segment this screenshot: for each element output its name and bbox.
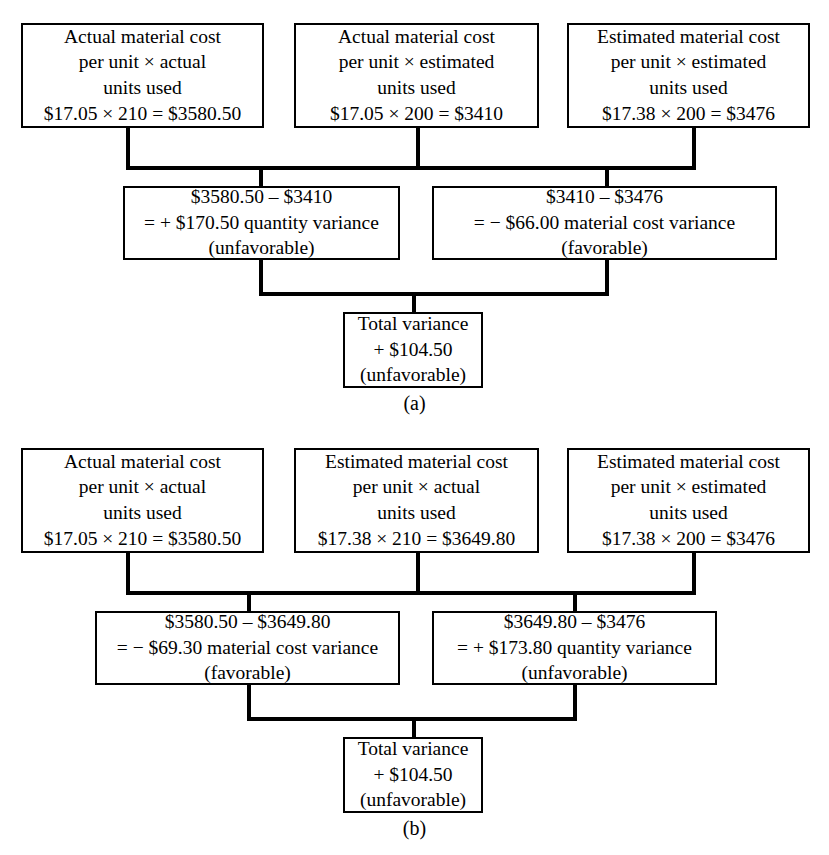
node-line: $3649.80 – $3476 bbox=[504, 609, 645, 635]
node-line: Actual material cost bbox=[64, 449, 221, 475]
node-line: (favorable) bbox=[561, 235, 648, 261]
node-line: per unit × actual bbox=[79, 49, 206, 75]
node-line: Total variance bbox=[358, 736, 469, 762]
node-a-top-1: Actual material cost per unit × actual u… bbox=[21, 23, 264, 128]
connector-a-mid-bus bbox=[259, 292, 609, 296]
panel-label-b: (b) bbox=[0, 817, 829, 840]
node-line: $17.38 × 200 = $3476 bbox=[602, 526, 775, 552]
node-line: $17.05 × 210 = $3580.50 bbox=[44, 526, 242, 552]
panel-label-a: (a) bbox=[0, 392, 829, 415]
node-line: = + $173.80 quantity variance bbox=[457, 635, 692, 661]
node-line: (unfavorable) bbox=[208, 235, 314, 261]
panel-a: Actual material cost per unit × actual u… bbox=[0, 0, 829, 430]
node-line: $17.38 × 200 = $3476 bbox=[602, 101, 775, 127]
node-a-mid-1: $3580.50 – $3410 = + $170.50 quantity va… bbox=[123, 186, 400, 260]
node-line: units used bbox=[649, 75, 728, 101]
node-line: $17.05 × 210 = $3580.50 bbox=[44, 101, 242, 127]
node-a-top-2: Actual material cost per unit × estimate… bbox=[294, 23, 539, 128]
node-line: (unfavorable) bbox=[360, 787, 466, 813]
node-line: $3580.50 – $3649.80 bbox=[165, 609, 331, 635]
connector-a-top-bus bbox=[126, 166, 696, 170]
node-b-total: Total variance + $104.50 (unfavorable) bbox=[343, 737, 483, 813]
node-line: units used bbox=[649, 500, 728, 526]
node-a-mid-2: $3410 – $3476 = − $66.00 material cost v… bbox=[432, 186, 777, 260]
connector-b-top1-down bbox=[126, 551, 130, 595]
connector-b-top2-down bbox=[416, 551, 420, 595]
connector-a-top1-down bbox=[126, 126, 130, 170]
node-line: $17.05 × 200 = $3410 bbox=[330, 101, 503, 127]
panel-b: Actual material cost per unit × actual u… bbox=[0, 425, 829, 855]
connector-a-top3-down bbox=[692, 126, 696, 170]
connector-a-mid2-down bbox=[605, 258, 609, 296]
node-line: + $104.50 bbox=[373, 762, 452, 788]
node-line: (favorable) bbox=[204, 660, 291, 686]
node-b-top-1: Actual material cost per unit × actual u… bbox=[21, 448, 264, 553]
node-line: + $104.50 bbox=[373, 337, 452, 363]
node-line: units used bbox=[377, 500, 456, 526]
node-line: units used bbox=[103, 500, 182, 526]
variance-analysis-diagram: Actual material cost per unit × actual u… bbox=[0, 0, 829, 855]
node-line: = − $66.00 material cost variance bbox=[474, 210, 735, 236]
node-line: per unit × estimated bbox=[611, 49, 767, 75]
node-line: per unit × estimated bbox=[611, 474, 767, 500]
node-line: = − $69.30 material cost variance bbox=[117, 635, 378, 661]
node-line: per unit × actual bbox=[353, 474, 480, 500]
node-line: $3410 – $3476 bbox=[546, 184, 663, 210]
node-line: per unit × estimated bbox=[339, 49, 495, 75]
node-line: Actual material cost bbox=[338, 24, 495, 50]
node-b-top-2: Estimated material cost per unit × actua… bbox=[294, 448, 539, 553]
node-line: Estimated material cost bbox=[325, 449, 508, 475]
connector-b-mid1-down bbox=[247, 683, 251, 721]
node-a-top-3: Estimated material cost per unit × estim… bbox=[567, 23, 810, 128]
node-b-mid-1: $3580.50 – $3649.80 = − $69.30 material … bbox=[95, 611, 400, 685]
node-line: $3580.50 – $3410 bbox=[191, 184, 332, 210]
connector-b-mid2-down bbox=[573, 683, 577, 721]
node-line: per unit × actual bbox=[79, 474, 206, 500]
connector-b-top-bus bbox=[126, 591, 696, 595]
node-line: (unfavorable) bbox=[360, 362, 466, 388]
node-b-top-3: Estimated material cost per unit × estim… bbox=[567, 448, 810, 553]
node-a-total: Total variance + $104.50 (unfavorable) bbox=[343, 312, 483, 388]
node-line: Total variance bbox=[358, 311, 469, 337]
node-line: units used bbox=[377, 75, 456, 101]
connector-a-top2-down bbox=[416, 126, 420, 170]
node-line: = + $170.50 quantity variance bbox=[144, 210, 379, 236]
connector-b-top3-down bbox=[692, 551, 696, 595]
node-line: $17.38 × 210 = $3649.80 bbox=[318, 526, 516, 552]
node-line: Estimated material cost bbox=[597, 24, 780, 50]
node-line: Actual material cost bbox=[64, 24, 221, 50]
node-line: units used bbox=[103, 75, 182, 101]
node-line: Estimated material cost bbox=[597, 449, 780, 475]
node-b-mid-2: $3649.80 – $3476 = + $173.80 quantity va… bbox=[432, 611, 717, 685]
connector-a-mid1-down bbox=[259, 258, 263, 296]
node-line: (unfavorable) bbox=[521, 660, 627, 686]
